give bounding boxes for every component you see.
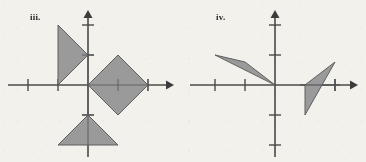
figure-iv-lower-right-triangle bbox=[305, 62, 335, 115]
figure-iii-y-axis-arrowhead bbox=[84, 10, 93, 18]
figure-iv: iv. bbox=[190, 10, 358, 157]
figure-iii-x-axis-arrowhead bbox=[166, 81, 174, 90]
figure-iii-label: iii. bbox=[30, 12, 41, 22]
figure-iv-x-axis-arrowhead bbox=[350, 81, 358, 90]
figure-canvas: iii. bbox=[0, 0, 366, 162]
figure-iii: iii. bbox=[8, 10, 174, 157]
figure-iv-y-axis-arrowhead bbox=[271, 10, 280, 18]
figure-iv-label: iv. bbox=[216, 12, 225, 22]
two-coordinate-plane-figures: iii. bbox=[0, 0, 366, 162]
